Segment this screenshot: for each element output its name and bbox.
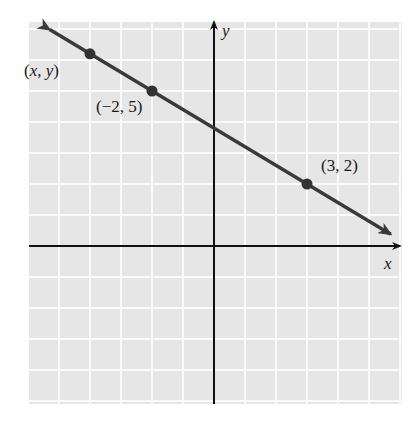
point-marker — [147, 86, 158, 97]
point-label: (−2, 5) — [96, 97, 142, 116]
grid-background — [29, 22, 402, 404]
point-marker — [85, 48, 96, 59]
point-label: (x, y) — [24, 61, 59, 80]
x-axis-label: x — [383, 254, 392, 273]
point-marker — [302, 179, 313, 190]
y-axis-label: y — [220, 21, 230, 40]
coordinate-plane: x y (x, y)(−2, 5)(3, 2) — [0, 0, 420, 427]
point-label: (3, 2) — [321, 156, 358, 175]
